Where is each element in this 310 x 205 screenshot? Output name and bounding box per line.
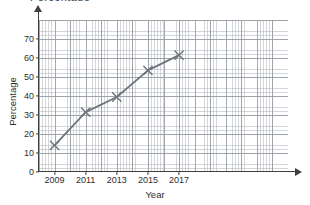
x-axis-arrow-icon	[295, 168, 302, 176]
plot-area-gridlines	[39, 20, 288, 172]
x-tick-label: 2011	[76, 175, 95, 185]
x-tick-mark	[54, 171, 55, 175]
x-axis-title: Year	[0, 189, 310, 200]
y-tick-label: 0	[8, 168, 34, 177]
x-tick-mark	[147, 171, 148, 175]
y-axis-title: Percentage	[7, 62, 18, 142]
y-axis-line	[38, 11, 39, 172]
y-tick-label: 70	[8, 35, 34, 44]
x-tick-label: 2013	[107, 175, 127, 185]
y-tick-mark	[36, 152, 39, 153]
y-tick-mark	[36, 38, 39, 39]
y-tick-mark	[36, 133, 39, 134]
chart-root: Percentage 010203040506070 2009201120132…	[0, 0, 310, 205]
x-tick-label: 2017	[169, 175, 189, 185]
x-axis-line	[39, 171, 297, 172]
x-tick-label: 2009	[45, 175, 65, 185]
y-tick-mark	[36, 76, 39, 77]
x-tick-mark	[178, 171, 179, 175]
clipped-heading-fragment: Percentage	[30, 0, 90, 1]
y-tick-mark	[36, 171, 39, 172]
y-tick-mark	[36, 114, 39, 115]
y-tick-mark	[36, 95, 39, 96]
y-axis-arrow-icon	[34, 5, 42, 12]
x-tick-mark	[85, 171, 86, 175]
y-tick-label: 10	[8, 149, 34, 158]
x-tick-mark	[116, 171, 117, 175]
x-tick-label: 2015	[138, 175, 158, 185]
y-tick-mark	[36, 57, 39, 58]
